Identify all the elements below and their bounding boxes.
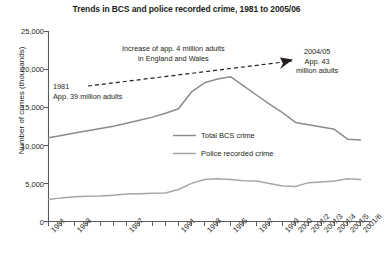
start-note-line-2: App. 39 million adults [53, 92, 122, 102]
start-note-annotation: 1981 App. 39 million adults [53, 82, 122, 101]
end-note-line-1: 2004/05 [296, 47, 338, 57]
end-note-line-3: million adults [296, 66, 338, 76]
legend-label-police-recorded-crime: Police recorded crime [201, 149, 274, 158]
legend-swatches [173, 136, 196, 154]
increase-note-annotation: Increase of app. 4 million adults in Eng… [122, 44, 225, 63]
end-note-annotation: 2004/05 App. 43 million adults [296, 47, 338, 76]
legend-label-total-bcs-crime: Total BCS crime [201, 131, 255, 140]
increase-note-line-2: in England and Wales [122, 54, 225, 64]
start-note-line-1: 1981 [53, 82, 122, 92]
increase-note-line-1: Increase of app. 4 million adults [122, 44, 225, 54]
end-note-line-2: App. 43 [296, 57, 338, 67]
series-line-police-recorded-crime [49, 179, 361, 200]
